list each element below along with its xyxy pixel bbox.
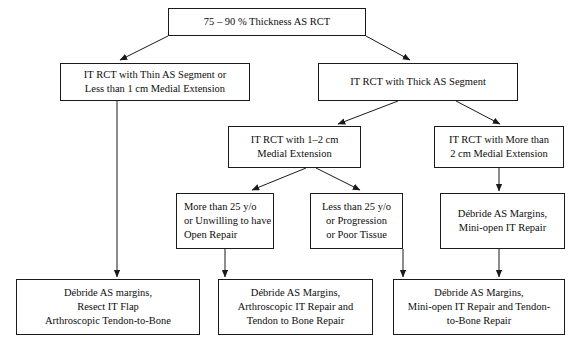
node-outcome-left-line-1: Débride AS margins,: [64, 286, 152, 300]
node-outcome-middle-line-1: Débride AS Margins,: [251, 286, 340, 300]
node-more-25-line-1: More than 25 y/o: [184, 200, 257, 214]
node-thin-line-2: Less than 1 cm Medial Extension: [85, 82, 225, 96]
node-outcome-left: Débride AS margins, Resect IT Flap Arthr…: [16, 279, 200, 335]
flowchart-diagram: 75 – 90 % Thickness AS RCT IT RCT with T…: [0, 0, 574, 347]
node-one-two-cm-line-2: Medial Extension: [257, 147, 331, 161]
node-less-25-line-3: or Poor Tissue: [326, 228, 387, 242]
node-thin-line-1: IT RCT with Thin AS Segment or: [84, 68, 226, 82]
node-outcome-right-line-2: Mini-open IT Repair and Tendon-: [408, 300, 550, 314]
node-thick-as-segment: IT RCT with Thick AS Segment: [318, 63, 518, 101]
node-outcome-right-line-3: to-Bone Repair: [447, 314, 511, 328]
node-more-two-cm-line-1: IT RCT with More than: [449, 133, 549, 147]
edge-thick-to-more-two-cm: [456, 101, 500, 124]
edge-one-two-cm-to-less-25: [316, 168, 360, 190]
node-root-line-1: 75 – 90 % Thickness AS RCT: [204, 15, 330, 29]
node-root: 75 – 90 % Thickness AS RCT: [168, 8, 366, 36]
node-debride-mini-open: Débride AS Margins, Mini-open IT Repair: [440, 193, 565, 249]
node-outcome-middle-line-3: Tendon to Bone Repair: [247, 314, 345, 328]
node-more-25-line-2: or Unwilling to have: [184, 214, 271, 228]
node-less-25-line-2: or Progression: [326, 214, 387, 228]
edge-one-two-cm-to-more-25: [252, 168, 306, 190]
edge-thick-to-one-two-cm: [338, 101, 398, 124]
node-more-25-line-3: Open Repair: [184, 228, 237, 242]
node-one-two-cm-line-1: IT RCT with 1–2 cm: [251, 133, 339, 147]
node-debride-mini-line-1: Débride AS Margins,: [458, 207, 547, 221]
node-outcome-right: Débride AS Margins, Mini-open IT Repair …: [393, 279, 565, 335]
edge-root-to-thick: [366, 36, 410, 60]
node-more-than-two-cm: IT RCT with More than 2 cm Medial Extens…: [434, 126, 564, 168]
node-less-25-line-1: Less than 25 y/o: [322, 200, 391, 214]
node-more-two-cm-line-2: 2 cm Medial Extension: [450, 147, 548, 161]
node-one-to-two-cm: IT RCT with 1–2 cm Medial Extension: [228, 126, 361, 168]
node-thick-line-1: IT RCT with Thick AS Segment: [350, 75, 486, 89]
node-outcome-middle: Débride AS Margins, Arthroscopic IT Repa…: [218, 279, 373, 335]
node-outcome-left-line-2: Resect IT Flap: [77, 300, 139, 314]
node-more-than-25-yo: More than 25 y/o or Unwilling to have Op…: [176, 193, 274, 249]
node-debride-mini-line-2: Mini-open IT Repair: [459, 221, 546, 235]
node-thin-as-segment: IT RCT with Thin AS Segment or Less than…: [60, 63, 250, 101]
node-outcome-left-line-3: Arthroscopic Tendon-to-Bone: [45, 314, 171, 328]
node-less-than-25-yo: Less than 25 y/o or Progression or Poor …: [310, 193, 403, 249]
edge-root-to-thin: [120, 36, 168, 60]
node-outcome-middle-line-2: Arthroscopic IT Repair and: [238, 300, 354, 314]
node-outcome-right-line-1: Débride AS Margins,: [434, 286, 523, 300]
